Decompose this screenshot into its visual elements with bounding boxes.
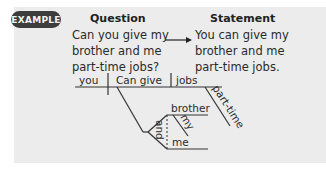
subject-word: you — [79, 74, 98, 86]
verb-word: Can give — [116, 74, 162, 86]
direct-object-word: jobs — [175, 74, 197, 86]
indirect-object-slant — [117, 87, 143, 132]
conjunction-word: and — [154, 120, 166, 140]
right-arrow-icon — [165, 37, 192, 43]
indirect-object-2-word: me — [172, 136, 189, 148]
sentence-diagram: you Can give jobs part-time and brother … — [0, 0, 326, 170]
indirect-object-1-word: brother — [171, 102, 210, 114]
